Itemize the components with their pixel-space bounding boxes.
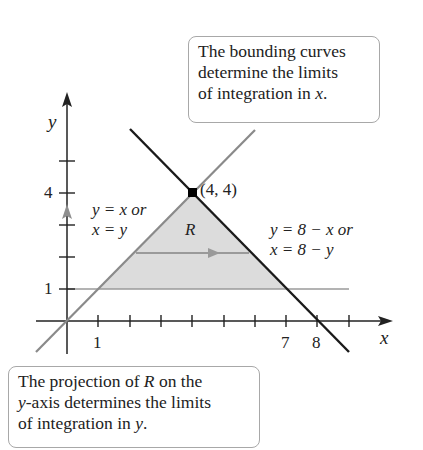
- right-curve-equation-line1: y = 8 − x or: [270, 220, 353, 240]
- y-tick-label-1: 1: [44, 279, 53, 299]
- x-tick-label-8: 8: [312, 333, 321, 353]
- y-axis-label: y: [48, 112, 56, 132]
- x-tick-label-7: 7: [281, 333, 290, 353]
- callout-bottom-line2: y-axis determines the limits: [18, 392, 251, 413]
- callout-bottom-line3: of integration in y.: [18, 413, 251, 434]
- left-curve-equation-line2: x = y: [92, 220, 127, 240]
- left-curve-equation-line1: y = x or: [92, 200, 146, 220]
- intersection-point-marker: [188, 188, 197, 197]
- x-tick-label-1: 1: [93, 333, 102, 353]
- callout-bounding-curves: The bounding curves determine the limits…: [188, 36, 380, 123]
- callout-bottom-line1: The projection of R on the: [18, 371, 251, 392]
- region-r-label: R: [185, 220, 195, 240]
- y-tick-label-4: 4: [44, 183, 53, 203]
- x-axis-label: x: [380, 328, 388, 348]
- intersection-point-label: (4, 4): [200, 180, 237, 200]
- callout-top-line1: The bounding curves: [198, 41, 371, 62]
- right-curve-equation-line2: x = 8 − y: [270, 240, 334, 260]
- callout-top-line2: determine the limits: [198, 62, 371, 83]
- callout-top-line3: of integration in x.: [198, 83, 371, 104]
- callout-projection: The projection of R on the y-axis determ…: [8, 366, 260, 448]
